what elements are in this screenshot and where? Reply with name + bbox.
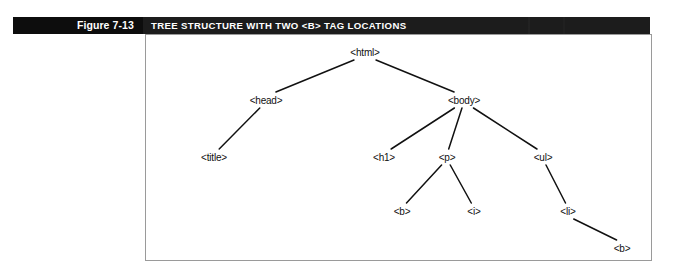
tree-node-html: <html> bbox=[350, 47, 379, 58]
tree-node-li: <li> bbox=[560, 206, 575, 217]
figure-title-block: TREE STRUCTURE WITH TWO <B> TAG LOCATION… bbox=[143, 17, 650, 34]
tree-node-h1: <h1> bbox=[373, 152, 395, 163]
tree-node-ul: <ul> bbox=[534, 152, 553, 163]
figure-caption-bar: Figure 7-13 TREE STRUCTURE WITH TWO <B> … bbox=[13, 17, 650, 34]
figure-number-block: Figure 7-13 bbox=[13, 17, 143, 34]
tree-node-head: <head> bbox=[250, 95, 283, 106]
figure-number-label: Figure 7-13 bbox=[77, 20, 134, 31]
tree-node-p: <p> bbox=[439, 152, 456, 163]
figure-title-label: TREE STRUCTURE WITH TWO <B> TAG LOCATION… bbox=[151, 21, 406, 31]
tree-node-i: <i> bbox=[467, 206, 480, 217]
tree-node-b1: <b> bbox=[394, 206, 411, 217]
diagram-frame bbox=[145, 34, 652, 261]
tree-node-body: <body> bbox=[448, 95, 480, 106]
tree-node-b2: <b> bbox=[614, 243, 631, 254]
tree-node-title: <title> bbox=[201, 152, 227, 163]
